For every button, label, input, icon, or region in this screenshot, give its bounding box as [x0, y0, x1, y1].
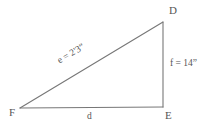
triangle-figure: D E F e = 2'3” f = 14” d [0, 0, 206, 127]
vertex-label-d: D [169, 5, 177, 16]
vertex-label-e: E [165, 110, 172, 121]
vertex-label-f: F [9, 107, 15, 118]
base-edge-fe [20, 107, 163, 108]
hypotenuse-edge-fd [20, 22, 163, 108]
base-leg-length-label: d [87, 111, 92, 121]
vertical-leg-length-label: f = 14” [170, 58, 197, 68]
